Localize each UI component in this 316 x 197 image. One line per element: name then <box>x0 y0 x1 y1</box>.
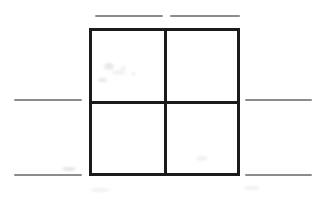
dash-top-left <box>95 15 163 17</box>
dash-bottom-right <box>245 174 312 176</box>
top-left-cell <box>92 31 164 101</box>
scan-artifact <box>244 186 260 190</box>
dash-middle-left <box>14 99 82 101</box>
top-right-cell <box>167 31 237 101</box>
scan-artifact <box>62 167 76 171</box>
bottom-left-cell <box>92 104 164 173</box>
bottom-right-cell <box>167 104 237 173</box>
dash-middle-right <box>245 99 312 101</box>
dash-top-right <box>170 15 240 17</box>
scan-artifact <box>90 188 110 192</box>
dash-bottom-left <box>14 174 82 176</box>
diagram-canvas <box>0 0 316 197</box>
